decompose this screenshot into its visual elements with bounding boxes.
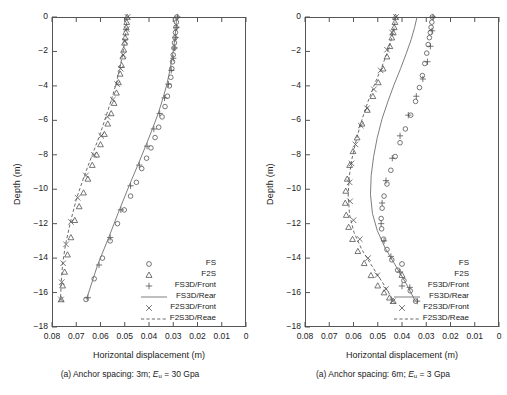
legend-item-label: FS [459, 258, 469, 267]
series-F2S [58, 14, 130, 302]
y-tick-label: −8 [269, 149, 301, 159]
y-tick-label: −12 [269, 218, 301, 228]
caption-prefix-right: (a) Anchor spacing: 6m; [316, 369, 408, 379]
y-tick-label: −10 [269, 183, 301, 193]
x-tick-label: 0 [485, 331, 507, 341]
legend-symbol-circle-icon [140, 258, 168, 269]
legend-item-label: FS3D/Front [175, 280, 216, 289]
legend-item-label: F2S3D/Reae [170, 313, 216, 322]
legend-left: FSF2SFS3D/FrontFS3D/RearF2S3D/FrontF2S3D… [140, 258, 246, 324]
legend-item-label: F2S3D/Front [423, 302, 469, 311]
legend-item: FS3D/Front [393, 280, 499, 291]
legend-symbol-plus-icon [393, 280, 421, 291]
legend-item-label: F2S [454, 269, 469, 278]
legend-item: F2S3D/Reae [393, 313, 499, 324]
y-tick-label: −16 [16, 287, 48, 297]
legend-item-label: F2S [201, 269, 216, 278]
legend-item: FS [393, 258, 499, 269]
y-tick-label: −6 [16, 114, 48, 124]
legend-symbol-triangle-icon [140, 269, 168, 280]
y-tick-label: −16 [269, 287, 301, 297]
legend-item: F2S3D/Reae [140, 313, 246, 324]
legend-item: F2S3D/Front [393, 302, 499, 313]
legend-symbol-plus-icon [140, 280, 168, 291]
legend-symbol-triangle-icon [393, 269, 421, 280]
legend-symbol-circle-icon [393, 258, 421, 269]
panel-caption-right: (a) Anchor spacing: 6m; Eu = 3 Gpa [273, 369, 493, 379]
legend-item: F2S [140, 269, 246, 280]
series-F2S3D-Front [58, 14, 130, 302]
y-tick-label: −10 [16, 183, 48, 193]
y-tick-label: −18 [16, 321, 48, 331]
panel-a-left: Depth (m) Horizontal displacement (m) (a… [0, 0, 253, 395]
legend-item: F2S [393, 269, 499, 280]
y-tick-label: −14 [16, 252, 48, 262]
y-tick-label: −6 [269, 114, 301, 124]
legend-item-label: F2S3D/Reae [423, 313, 469, 322]
series-F2S3D-Reae [348, 17, 396, 301]
caption-prefix-left: (a) Anchor spacing: 3m; [61, 369, 153, 379]
legend-item-label: FS3D/Rear [176, 291, 216, 300]
x-axis-label-left: Horizontal displacement (m) [52, 350, 246, 360]
legend-symbol-cross-icon [393, 302, 421, 313]
caption-suffix-left: = 30 Gpa [162, 369, 200, 379]
y-tick-label: −4 [16, 80, 48, 90]
legend-symbol-cross-icon [140, 302, 168, 313]
legend-symbol-solid-line-icon [140, 291, 168, 302]
series-F2S3D-Front [347, 14, 399, 304]
caption-suffix-right: = 3 Gpa [417, 369, 450, 379]
y-tick-label: −12 [16, 218, 48, 228]
y-tick-label: −14 [269, 252, 301, 262]
legend-item: FS3D/Front [140, 280, 246, 291]
legend-item: FS [140, 258, 246, 269]
legend-item-label: FS3D/Rear [429, 291, 469, 300]
legend-item: FS3D/Rear [393, 291, 499, 302]
y-tick-label: −4 [269, 80, 301, 90]
legend-right: FSF2SFS3D/FrontFS3D/RearF2S3D/FrontF2S3D… [393, 258, 499, 324]
panel-a-right: Depth (m) Horizontal displacement (m) (a… [253, 0, 506, 395]
legend-symbol-dashed-line-icon [140, 313, 168, 324]
legend-symbol-dashed-line-icon [393, 313, 421, 324]
legend-item-label: FS [206, 258, 216, 267]
figure-root: Depth (m) Horizontal displacement (m) (a… [0, 0, 507, 395]
legend-item: FS3D/Rear [140, 291, 246, 302]
y-tick-label: −18 [269, 321, 301, 331]
x-axis-label-right: Horizontal displacement (m) [305, 350, 499, 360]
legend-item-label: F2S3D/Front [170, 302, 216, 311]
legend-item-label: FS3D/Front [428, 280, 469, 289]
y-tick-label: −2 [269, 45, 301, 55]
panel-caption-left: (a) Anchor spacing: 3m; Eu = 30 Gpa [20, 369, 240, 379]
y-tick-label: −2 [16, 45, 48, 55]
legend-symbol-solid-line-icon [393, 291, 421, 302]
y-tick-label: 0 [269, 11, 301, 21]
legend-item: F2S3D/Front [140, 302, 246, 313]
y-tick-label: −8 [16, 149, 48, 159]
y-tick-label: 0 [16, 11, 48, 21]
